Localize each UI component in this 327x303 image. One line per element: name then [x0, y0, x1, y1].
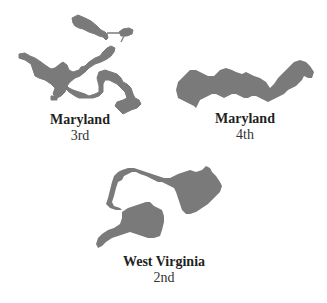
- state-name: West Virginia: [104, 254, 224, 270]
- district-label-maryland-4th: Maryland 4th: [195, 111, 295, 143]
- district-shape-maryland-4th: [174, 50, 319, 115]
- state-name: Maryland: [30, 112, 130, 128]
- district-rank: 4th: [195, 127, 295, 143]
- district-shape-maryland-3rd: [15, 12, 155, 117]
- district-shape-west-virginia-2nd: [92, 162, 237, 252]
- district-label-west-virginia-2nd: West Virginia 2nd: [104, 254, 224, 286]
- district-label-maryland-3rd: Maryland 3rd: [30, 112, 130, 144]
- district-rank: 3rd: [30, 128, 130, 144]
- district-rank: 2nd: [104, 270, 224, 286]
- state-name: Maryland: [195, 111, 295, 127]
